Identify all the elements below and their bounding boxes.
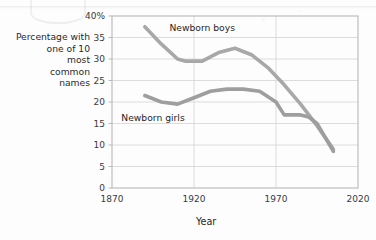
x-tick-label: 1870 <box>101 194 124 204</box>
y-tick-label: 0 <box>99 183 105 193</box>
gridlines <box>112 38 358 167</box>
data-series-lines <box>145 27 334 152</box>
y-tick-label: 20 <box>94 97 106 107</box>
y-tick-labels: 0510152025303540% <box>85 11 105 193</box>
y-tick-label: 5 <box>99 162 105 172</box>
x-tick-label: 1970 <box>265 194 288 204</box>
chart-figure: Percentage with one of 10 most common na… <box>0 0 376 240</box>
x-tick-label: 2020 <box>347 194 370 204</box>
series-label-newborn-girls: Newborn girls <box>121 112 185 123</box>
y-tick-label: 40% <box>85 11 105 21</box>
plot-area: 0510152025303540% 1870192019702020 Newbo… <box>0 0 376 240</box>
y-tick-label: 10 <box>94 140 106 150</box>
y-tick-label: 35 <box>94 33 105 43</box>
x-axis-title: Year <box>196 216 216 227</box>
x-tick-label: 1920 <box>183 194 206 204</box>
line-chart-svg: 0510152025303540% 1870192019702020 Newbo… <box>0 0 376 240</box>
series-label-newborn-boys: Newborn boys <box>169 22 235 33</box>
y-tick-label: 15 <box>94 119 105 129</box>
y-tick-label: 30 <box>94 54 106 64</box>
x-tick-labels: 1870192019702020 <box>101 194 370 204</box>
y-tick-label: 25 <box>94 76 105 86</box>
